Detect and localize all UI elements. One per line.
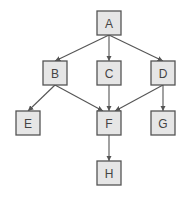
dependency-graph: ABCDEFGH	[0, 0, 186, 201]
node-e: E	[16, 111, 40, 135]
node-label: C	[105, 67, 114, 81]
node-label: H	[105, 167, 114, 181]
node-label: D	[159, 67, 168, 81]
node-a: A	[97, 11, 121, 35]
node-d: D	[151, 61, 175, 85]
edge-b-to-e	[28, 85, 55, 111]
node-c: C	[97, 61, 121, 85]
edge-a-to-b	[55, 35, 109, 61]
node-label: A	[105, 17, 113, 31]
edges-layer	[28, 35, 163, 161]
edge-b-to-f	[55, 85, 103, 111]
node-label: F	[105, 117, 112, 131]
node-h: H	[97, 161, 121, 185]
node-label: B	[51, 67, 59, 81]
node-g: G	[151, 111, 175, 135]
node-label: E	[24, 117, 32, 131]
node-b: B	[43, 61, 67, 85]
node-label: G	[158, 117, 167, 131]
node-f: F	[97, 111, 121, 135]
nodes-layer: ABCDEFGH	[16, 11, 175, 185]
edge-a-to-d	[109, 35, 163, 61]
edge-d-to-f	[115, 85, 163, 111]
